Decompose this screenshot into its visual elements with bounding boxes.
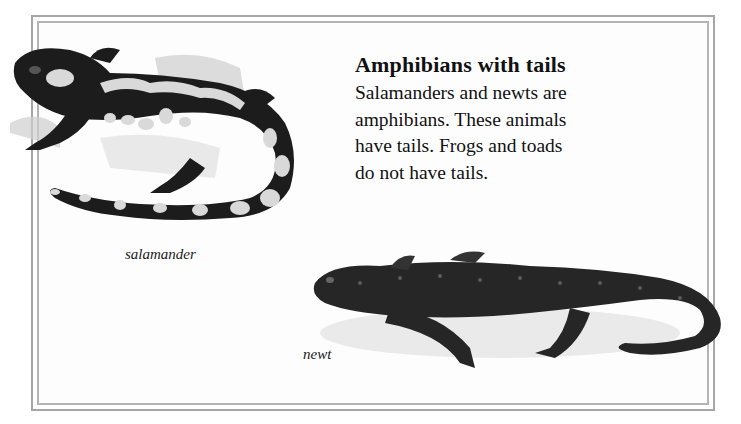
page-heading: Amphibians with tails bbox=[355, 52, 695, 78]
salamander-illustration bbox=[0, 38, 320, 228]
body-paragraph: Salamanders and newts are amphibians. Th… bbox=[355, 80, 695, 186]
body-line: amphibians. These animals bbox=[355, 107, 695, 134]
newt-illustration bbox=[300, 238, 741, 378]
text-block: Amphibians with tails Salamanders and ne… bbox=[355, 52, 695, 186]
body-line: Salamanders and newts are bbox=[355, 80, 695, 107]
body-line: do not have tails. bbox=[355, 160, 695, 187]
newt-caption: newt bbox=[303, 346, 331, 363]
body-line: have tails. Frogs and toads bbox=[355, 133, 695, 160]
salamander-caption: salamander bbox=[125, 246, 196, 263]
